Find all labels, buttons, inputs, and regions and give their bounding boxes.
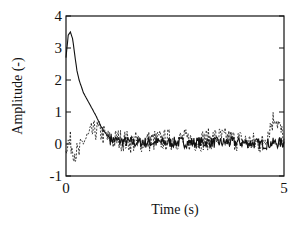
series-dashed	[66, 112, 284, 161]
x-tick-label: 5	[280, 180, 288, 196]
y-tick-label: 2	[55, 72, 63, 88]
y-tick-label: 1	[55, 104, 63, 120]
x-tick-label: 0	[62, 180, 70, 196]
plot-frame	[66, 16, 284, 176]
y-axis-title: Amplitude (-)	[10, 57, 26, 135]
series-solid	[66, 32, 284, 149]
y-tick-label: 4	[55, 8, 63, 24]
x-axis-title: Time (s)	[151, 202, 199, 218]
data-series	[66, 32, 284, 162]
y-tick-label: 0	[55, 136, 63, 152]
x-axis-ticks: 05	[62, 180, 288, 196]
y-tick-label: -1	[50, 168, 63, 184]
amplitude-time-chart: -101234 05 Time (s) Amplitude (-)	[0, 0, 301, 229]
y-tick-label: 3	[55, 40, 63, 56]
